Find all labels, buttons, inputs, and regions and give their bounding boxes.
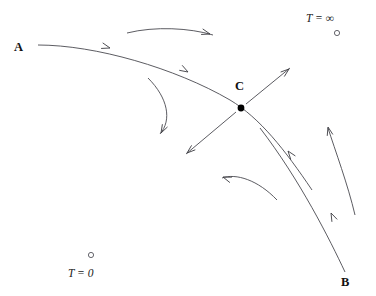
arrowhead-separatrix-b-to-c-0 (331, 213, 337, 221)
label-a: A (14, 40, 23, 54)
flow-curve-unstable-out-upper-right (246, 68, 290, 104)
flow-diagram-canvas: A B C T = 0 T = ∞ (0, 0, 376, 296)
flow-curves-group (38, 29, 355, 272)
flow-curve-top-incoming-arc (127, 29, 213, 35)
fixed-points-group (88, 30, 339, 257)
fixed-point-t-infinity (334, 30, 339, 35)
flow-arrowheads-group (102, 29, 337, 221)
flow-curve-unstable-out-lower-left (186, 112, 236, 154)
arrowhead-left-outgoing-arc-0 (161, 125, 167, 133)
flow-curve-right-outgoing-arc (328, 128, 355, 215)
label-temperature-infinity: T = ∞ (306, 12, 334, 24)
flow-curve-separatrix-b-to-c (260, 128, 345, 272)
fixed-point-t-zero (88, 252, 93, 257)
flow-curve-separatrix-a-to-c (38, 45, 312, 190)
arrowhead-separatrix-a-to-c-0 (102, 43, 110, 48)
label-b: B (341, 275, 349, 289)
flow-curve-left-outgoing-arc (148, 78, 167, 134)
label-c: C (235, 79, 244, 93)
arrowhead-separatrix-a-to-c-1 (180, 66, 188, 72)
label-temperature-zero: T = 0 (68, 267, 94, 279)
arrowhead-top-incoming-arc-0 (202, 29, 210, 34)
arrowhead-lower-incoming-arc-0 (223, 177, 232, 182)
fixed-point-c (238, 105, 245, 112)
flow-curve-lower-incoming-arc (222, 176, 277, 200)
flow-diagram: A B C T = 0 T = ∞ (0, 0, 376, 296)
